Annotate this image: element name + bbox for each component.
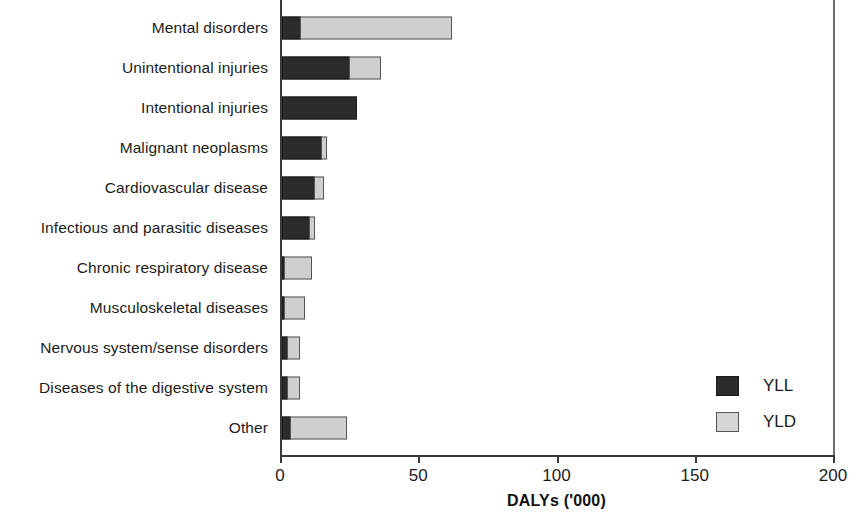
stacked-bar — [282, 297, 305, 320]
chart-row: Unintentional injuries — [0, 48, 856, 88]
stacked-bar — [282, 97, 357, 120]
bar-segment-yld — [321, 137, 327, 160]
stacked-bar — [282, 177, 324, 200]
bar-segment-yll — [282, 97, 357, 120]
category-label: Diseases of the digestive system — [39, 379, 268, 397]
category-label: Intentional injuries — [141, 99, 268, 117]
x-tick-label: 200 — [819, 466, 847, 486]
category-label: Unintentional injuries — [122, 59, 268, 77]
legend-item-yll: YLL — [716, 368, 796, 404]
bar-segment-yld — [314, 177, 324, 200]
bar-segment-yld — [284, 257, 312, 280]
category-label: Chronic respiratory disease — [77, 259, 268, 277]
category-label: Mental disorders — [152, 19, 268, 37]
stacked-bar — [282, 17, 452, 40]
stacked-bar — [282, 417, 347, 440]
x-tick — [280, 455, 282, 463]
chart-row: Infectious and parasitic diseases — [0, 208, 856, 248]
category-label: Cardiovascular disease — [105, 179, 268, 197]
category-label: Other — [229, 419, 268, 437]
x-tick-label: 150 — [681, 466, 709, 486]
stacked-bar — [282, 337, 300, 360]
stacked-bar — [282, 57, 381, 80]
bar-segment-yld — [290, 417, 348, 440]
category-label: Nervous system/sense disorders — [40, 339, 268, 357]
bar-segment-yld — [287, 377, 300, 400]
bar-segment-yld — [349, 57, 381, 80]
x-tick — [833, 455, 835, 463]
chart-row: Mental disorders — [0, 8, 856, 48]
stacked-bar — [282, 257, 312, 280]
bar-segment-yld — [287, 337, 301, 360]
bar-segment-yld — [284, 297, 305, 320]
chart-row: Cardiovascular disease — [0, 168, 856, 208]
dalys-bar-chart: Mental disordersUnintentional injuriesIn… — [0, 0, 856, 521]
bar-segment-yld — [300, 17, 452, 40]
bar-segment-yll — [282, 217, 310, 240]
bar-segment-yll — [282, 57, 350, 80]
stacked-bar — [282, 217, 315, 240]
x-tick — [418, 455, 420, 463]
x-tick — [557, 455, 559, 463]
bar-segment-yll — [282, 137, 322, 160]
x-tick-label: 50 — [409, 466, 428, 486]
chart-row: Malignant neoplasms — [0, 128, 856, 168]
legend-label-yld: YLD — [763, 412, 796, 432]
dark-square-icon — [716, 376, 739, 396]
chart-row: Chronic respiratory disease — [0, 248, 856, 288]
category-label: Malignant neoplasms — [120, 139, 268, 157]
stacked-bar — [282, 137, 327, 160]
light-square-icon — [716, 412, 739, 432]
x-axis-title: DALYs ('000) — [280, 492, 833, 510]
bar-segment-yld — [309, 217, 315, 240]
chart-row: Intentional injuries — [0, 88, 856, 128]
legend-item-yld: YLD — [716, 404, 796, 440]
stacked-bar — [282, 377, 300, 400]
x-tick-label: 100 — [542, 466, 570, 486]
category-label: Infectious and parasitic diseases — [41, 219, 268, 237]
category-label: Musculoskeletal diseases — [90, 299, 268, 317]
chart-legend: YLL YLD — [716, 368, 796, 440]
bar-segment-yll — [282, 17, 301, 40]
chart-row: Musculoskeletal diseases — [0, 288, 856, 328]
x-tick-label: 0 — [275, 466, 284, 486]
chart-row: Nervous system/sense disorders — [0, 328, 856, 368]
bar-segment-yll — [282, 177, 315, 200]
x-tick — [695, 455, 697, 463]
legend-label-yll: YLL — [763, 376, 793, 396]
